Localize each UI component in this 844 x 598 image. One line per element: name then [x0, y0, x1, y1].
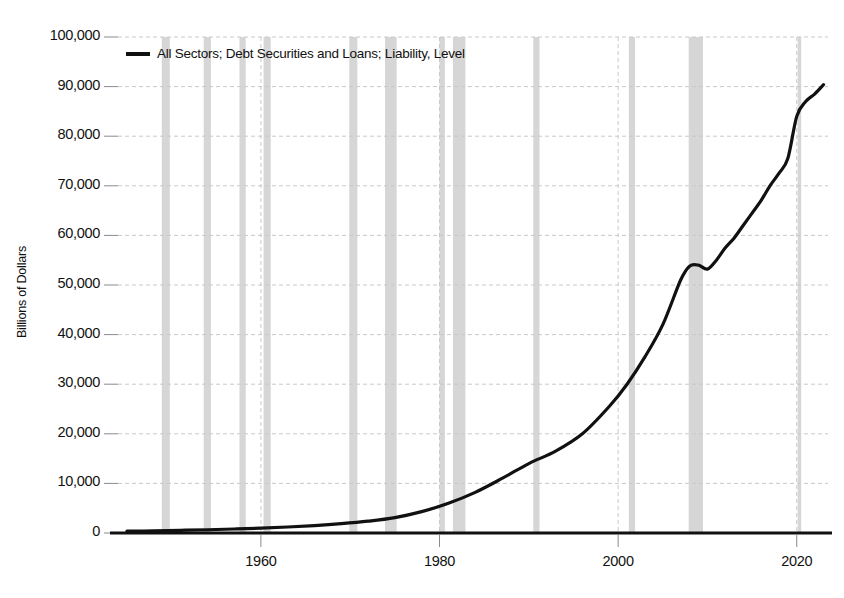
legend-line-swatch	[126, 52, 150, 56]
y-tick-label: 0	[28, 523, 100, 539]
y-tick-label: 50,000	[28, 275, 100, 291]
y-tick-label: 10,000	[28, 473, 100, 489]
y-axis-label: Billions of Dollars	[15, 212, 29, 372]
recession-bands	[162, 37, 801, 533]
data-line-series-1	[127, 85, 824, 532]
x-axis-ticks	[261, 535, 797, 547]
y-tick-label: 80,000	[28, 126, 100, 142]
chart-container: Billions of Dollars 010,00020,00030,0004…	[0, 0, 844, 598]
y-axis-ticks	[104, 37, 118, 533]
gridlines	[118, 37, 828, 533]
y-tick-label: 90,000	[28, 77, 100, 93]
y-tick-label: 30,000	[28, 374, 100, 390]
legend-label: All Sectors; Debt Securities and Loans; …	[157, 46, 465, 61]
y-tick-label: 40,000	[28, 325, 100, 341]
legend: All Sectors; Debt Securities and Loans; …	[126, 46, 465, 61]
y-tick-label: 20,000	[28, 424, 100, 440]
plot-area	[0, 0, 844, 598]
y-tick-label: 70,000	[28, 176, 100, 192]
y-axis-tick-labels: 010,00020,00030,00040,00050,00060,00070,…	[28, 0, 100, 598]
y-tick-label: 60,000	[28, 225, 100, 241]
y-tick-label: 100,000	[28, 27, 100, 43]
